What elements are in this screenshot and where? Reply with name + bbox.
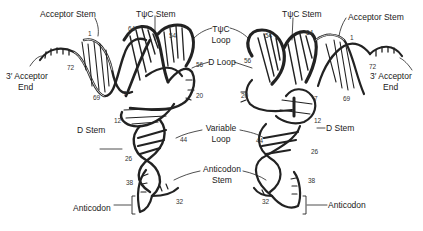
residue-56-right: 56 bbox=[244, 57, 251, 64]
residue-26-right: 26 bbox=[311, 148, 318, 155]
residue-64-right: 64 bbox=[306, 29, 313, 36]
label-variable-loop-line2: Loop bbox=[202, 135, 240, 144]
residue-54-left: 54 bbox=[169, 32, 176, 39]
residue-7-left: 7 bbox=[123, 90, 127, 97]
residue-54-right: 54 bbox=[265, 32, 272, 39]
residue-32-right: 32 bbox=[262, 198, 269, 205]
residue-69-left: 69 bbox=[93, 94, 100, 101]
residue-38-left: 38 bbox=[126, 179, 133, 186]
residue-64-left: 64 bbox=[128, 25, 135, 32]
label-3-acceptor-end-left-line2: End bbox=[18, 83, 33, 92]
label-acceptor-stem-right: Acceptor Stem bbox=[348, 13, 404, 22]
residue-12-left: 12 bbox=[114, 117, 121, 124]
residue-56-left: 56 bbox=[196, 61, 203, 68]
label-variable-loop-line1: Variable bbox=[202, 124, 240, 133]
label-acceptor-stem-left: Acceptor Stem bbox=[40, 10, 96, 19]
residue-72-right: 72 bbox=[369, 63, 376, 70]
label-anticodon-right: Anticodon bbox=[328, 201, 366, 210]
label-anticodon-stem-line1: Anticodon bbox=[200, 165, 244, 174]
residue-72-left: 72 bbox=[67, 64, 74, 71]
residue-12-right: 12 bbox=[314, 117, 321, 124]
residue-69-right: 69 bbox=[343, 95, 350, 102]
residue-1-right: 1 bbox=[350, 34, 354, 41]
label-anticodon-stem-line2: Stem bbox=[200, 176, 244, 185]
residue-20-left: 20 bbox=[196, 92, 203, 99]
label-tpsic-stem-left: TψC Stem bbox=[136, 10, 176, 19]
label-d-loop: D Loop bbox=[206, 58, 238, 67]
residue-38-right: 38 bbox=[308, 177, 315, 184]
label-3-acceptor-end-right-line2: End bbox=[383, 83, 398, 92]
label-tpsic-loop-line2: Loop bbox=[208, 36, 234, 45]
residue-26-left: 26 bbox=[125, 155, 132, 162]
residue-20-right: 20 bbox=[241, 92, 248, 99]
residue-1-left: 1 bbox=[88, 30, 92, 37]
residue-44-left: 44 bbox=[180, 136, 187, 143]
label-d-stem-left: D Stem bbox=[77, 126, 105, 135]
residue-7-right: 7 bbox=[314, 95, 318, 102]
residue-32-left: 32 bbox=[176, 198, 183, 205]
residue-44-right: 44 bbox=[256, 137, 263, 144]
label-d-stem-right: D Stem bbox=[326, 124, 354, 133]
label-3-acceptor-end-right-line1: 3′ Acceptor bbox=[370, 72, 412, 81]
trna-stereo-diagram: Acceptor Stem TψC Stem 3′ Acceptor End D… bbox=[0, 0, 423, 231]
label-tpsic-stem-right: TψC Stem bbox=[282, 10, 322, 19]
label-anticodon-left: Anticodon bbox=[73, 204, 111, 213]
label-3-acceptor-end-left-line1: 3′ Acceptor bbox=[6, 72, 48, 81]
label-tpsic-loop-line1: TψC bbox=[208, 25, 234, 34]
